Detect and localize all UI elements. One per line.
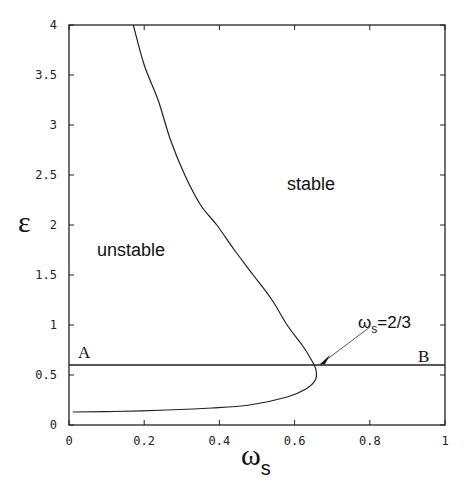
boundary-curve [73, 25, 317, 412]
x-axis-label: ωs [241, 438, 271, 479]
y-tick-label: 4 [50, 18, 57, 32]
annotation-arrow [326, 327, 370, 360]
x-tick-label: 1 [441, 434, 448, 448]
y-tick-label: 0 [50, 418, 57, 432]
y-tick-label: 3 [50, 118, 57, 132]
y-tick-label: 3.5 [35, 68, 57, 82]
arrow-head-icon [319, 355, 330, 365]
y-tick-label: 2.5 [35, 168, 57, 182]
x-tick-label: 0.6 [284, 434, 306, 448]
stable-label: stable [287, 174, 335, 194]
x-tick-label: 0.8 [359, 434, 381, 448]
unstable-label: unstable [97, 240, 165, 260]
svg-text:ωs: ωs [241, 438, 271, 479]
y-tick-label: 1.5 [35, 268, 57, 282]
x-tick-label: 0 [65, 434, 72, 448]
x-tick-label: 0.2 [133, 434, 155, 448]
y-tick-label: 1 [50, 318, 57, 332]
point-b-label: B [418, 347, 429, 366]
y-tick-label: 2 [50, 218, 57, 232]
point-a-label: A [78, 343, 91, 362]
y-axis-label: ε [18, 205, 31, 238]
svg-text:ωs=2/3: ωs=2/3 [358, 313, 411, 336]
omega-annotation: ωs=2/3 [319, 313, 411, 365]
y-tick-label: 0.5 [35, 368, 57, 382]
tick-labels: 00.20.40.60.8100.511.522.533.54 [35, 18, 448, 448]
stability-chart: 00.20.40.60.8100.511.522.533.54 stable u… [0, 0, 465, 495]
x-tick-label: 0.4 [209, 434, 231, 448]
